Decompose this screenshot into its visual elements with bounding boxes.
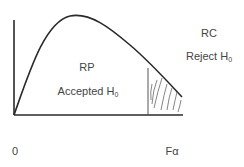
rejection-label-text: Reject H bbox=[186, 50, 228, 62]
acceptance-abbrev-text: RP bbox=[79, 61, 94, 73]
acceptance-label-subscript: 0 bbox=[114, 91, 118, 98]
rejection-abbrev-text: RC bbox=[201, 27, 217, 39]
rejection-region-label: Reject H0 bbox=[186, 50, 232, 66]
acceptance-label-text: Accepted H bbox=[58, 85, 115, 97]
rejection-region-hatch bbox=[151, 78, 181, 112]
critical-value-text: Fα bbox=[165, 145, 178, 157]
rejection-label-subscript: 0 bbox=[228, 56, 232, 63]
origin-text: 0 bbox=[12, 145, 18, 157]
acceptance-region-abbrev: RP bbox=[79, 61, 94, 73]
origin-label: 0 bbox=[12, 145, 18, 157]
f-distribution-diagram bbox=[0, 0, 244, 167]
acceptance-region-label: Accepted H0 bbox=[58, 85, 119, 101]
critical-value-label: Fα bbox=[165, 145, 178, 157]
rejection-region-abbrev: RC bbox=[201, 27, 217, 39]
